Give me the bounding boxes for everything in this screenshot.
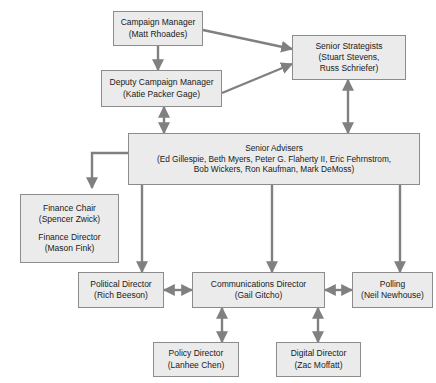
node-person: (Rich Beeson) — [94, 290, 148, 301]
node-person-finance-director: (Mason Fink) — [45, 243, 95, 254]
node-political-director[interactable]: Political Director (Rich Beeson) — [78, 272, 164, 308]
node-deputy-campaign-manager[interactable]: Deputy Campaign Manager (Katie Packer Ga… — [101, 70, 222, 107]
node-person: (Neil Newhouse) — [361, 290, 424, 301]
node-person: (Katie Packer Gage) — [123, 89, 200, 100]
node-role: Digital Director — [291, 348, 347, 359]
node-role: Senior Advisers — [245, 143, 303, 154]
node-campaign-manager[interactable]: Campaign Manager (Matt Rhoades) — [113, 11, 203, 46]
node-role: Political Director — [90, 279, 151, 290]
node-communications-director[interactable]: Communications Director (Gail Gitcho) — [192, 272, 325, 308]
node-person-finance-chair: (Spencer Zwick) — [39, 214, 100, 225]
node-role: Policy Director — [169, 348, 224, 359]
node-role-finance-director: Finance Director — [38, 232, 100, 243]
node-role: Deputy Campaign Manager — [110, 77, 214, 88]
node-person-line-2: Bob Wickers, Ron Kaufman, Mark DeMoss) — [194, 164, 354, 175]
node-role: Senior Strategists — [315, 41, 382, 52]
node-role: Polling — [380, 279, 406, 290]
node-person: (Lanhee Chen) — [168, 360, 225, 371]
org-chart: Campaign Manager (Matt Rhoades) Senior S… — [0, 0, 436, 383]
node-person: (Matt Rhoades) — [129, 29, 188, 40]
node-digital-director[interactable]: Digital Director (Zac Moffatt) — [276, 342, 361, 377]
node-role: Campaign Manager — [121, 17, 196, 28]
node-senior-strategists[interactable]: Senior Strategists (Stuart Stevens, Russ… — [292, 35, 406, 80]
node-person: (Gail Gitcho) — [235, 290, 283, 301]
node-polling[interactable]: Polling (Neil Newhouse) — [352, 272, 433, 308]
edge-campaign-manager-to-senior-strategists — [203, 30, 292, 49]
node-role-finance-chair: Finance Chair — [43, 203, 96, 214]
node-role: Communications Director — [211, 279, 306, 290]
node-person-line-1: (Stuart Stevens, — [319, 52, 380, 63]
edge-senior-advisers-to-finance — [92, 153, 128, 188]
node-person: (Zac Moffatt) — [294, 360, 342, 371]
node-person-line-2: Russ Schriefer) — [320, 63, 379, 74]
node-senior-advisers[interactable]: Senior Advisers (Ed Gillespie, Beth Myer… — [128, 133, 420, 185]
node-person-line-1: (Ed Gillespie, Beth Myers, Peter G. Flah… — [157, 154, 391, 165]
node-policy-director[interactable]: Policy Director (Lanhee Chen) — [153, 342, 239, 377]
node-finance[interactable]: Finance Chair (Spencer Zwick) Finance Di… — [20, 194, 119, 263]
edge-deputy-to-senior-strategists — [222, 64, 292, 93]
